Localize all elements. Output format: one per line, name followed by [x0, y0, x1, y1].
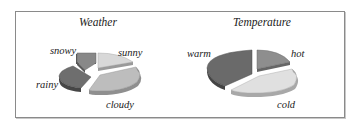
slice-hot — [257, 50, 290, 72]
temperature-pie-chart: Temperature warm hot cold — [180, 12, 344, 117]
label-rainy: rainy — [36, 79, 58, 90]
label-cloudy: cloudy — [106, 99, 134, 110]
weather-pie-chart: Weather snowy sun — [16, 12, 180, 117]
label-warm: warm — [187, 48, 211, 59]
label-cold: cold — [277, 99, 295, 110]
chart-frame: Weather snowy sun — [15, 11, 345, 118]
label-hot: hot — [291, 48, 304, 59]
label-sunny: sunny — [118, 47, 143, 58]
label-snowy: snowy — [50, 45, 76, 56]
slice-cloudy — [89, 67, 141, 95]
weather-pie-graphic — [16, 12, 180, 117]
temperature-pie-graphic — [180, 12, 344, 117]
slice-rainy — [59, 66, 91, 92]
